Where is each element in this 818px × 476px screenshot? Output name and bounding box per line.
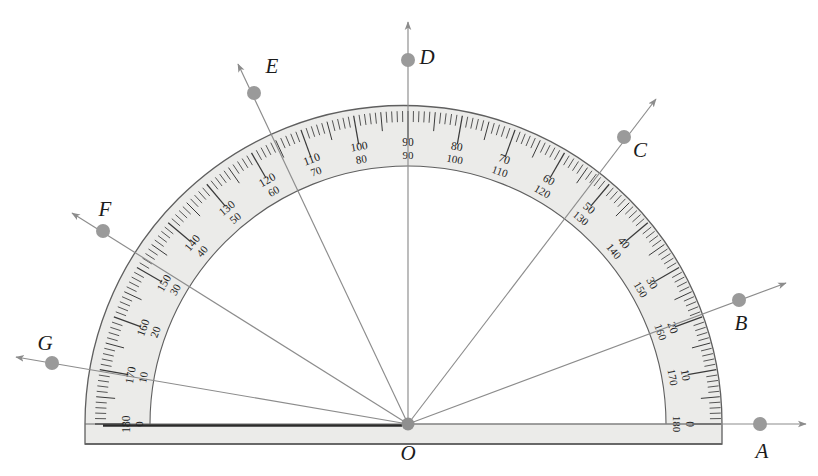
vertex-label-o: O <box>400 441 415 465</box>
inner-scale-number: 0 <box>133 421 145 427</box>
point-label-c: C <box>633 138 648 162</box>
point-label-a: A <box>754 439 769 463</box>
vertex-dot-o[interactable] <box>402 418 415 431</box>
protractor-figure: 0180101702016030150401405013060120701108… <box>0 0 818 476</box>
outer-scale-number: 180 <box>120 415 132 433</box>
scale-tick <box>392 111 393 122</box>
point-label-g: G <box>37 331 52 355</box>
protractor-canvas: 0180101702016030150401405013060120701108… <box>0 0 818 476</box>
point-dot-g[interactable] <box>45 356 59 370</box>
point-label-d: D <box>418 45 434 69</box>
point-dot-c[interactable] <box>617 130 631 144</box>
point-label-f: F <box>98 197 112 221</box>
point-dot-d[interactable] <box>401 53 415 67</box>
scale-tick <box>710 408 721 409</box>
scale-tick <box>95 408 106 409</box>
point-label-e: E <box>265 54 279 78</box>
outer-scale-number: 80 <box>450 139 464 153</box>
point-dot-b[interactable] <box>732 293 746 307</box>
scale-tick <box>424 111 425 122</box>
point-dot-e[interactable] <box>247 86 261 100</box>
point-label-b: B <box>735 311 748 335</box>
outer-scale-number: 10 <box>679 368 693 382</box>
point-dot-f[interactable] <box>96 224 110 238</box>
point-dot-a[interactable] <box>753 417 767 431</box>
